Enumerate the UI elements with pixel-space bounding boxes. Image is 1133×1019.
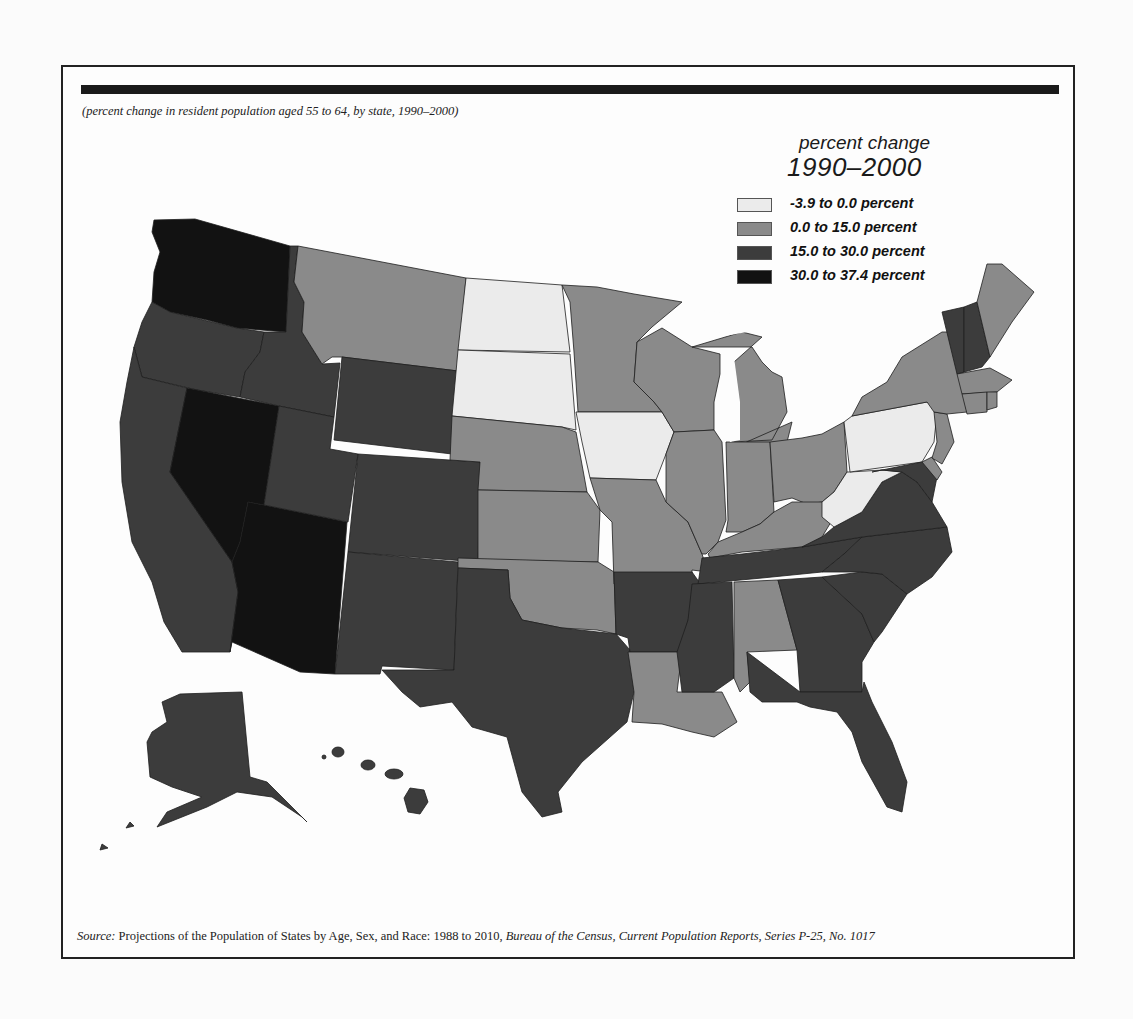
- legend-label: -3.9 to 0.0 percent: [790, 195, 913, 211]
- state-alaska: [147, 692, 307, 827]
- legend-swatch: [737, 222, 772, 236]
- legend-swatch: [737, 246, 772, 260]
- legend-title: percent change: [799, 132, 930, 154]
- legend-swatch: [737, 198, 772, 212]
- state-alaska-island: [100, 844, 108, 850]
- state-new-mexico: [335, 552, 458, 674]
- legend-period: 1990–2000: [787, 152, 922, 183]
- state-hawaii-island: [332, 747, 344, 757]
- source-title: Projections of the Population of States …: [115, 929, 502, 943]
- state-alaska-island: [126, 822, 134, 828]
- source-publisher: Bureau of the Census, Current Population…: [503, 929, 875, 943]
- legend-label: 15.0 to 30.0 percent: [790, 243, 925, 259]
- state-montana: [294, 246, 466, 371]
- legend-item: 30.0 to 37.4 percent: [735, 270, 1035, 286]
- figure-frame: (percent change in resident population a…: [61, 65, 1075, 959]
- state-hawaii-island: [404, 788, 428, 814]
- state-hawaii-island: [385, 769, 403, 779]
- legend-label: 30.0 to 37.4 percent: [790, 267, 925, 283]
- state-kansas: [478, 490, 600, 562]
- source-prefix: Source:: [77, 929, 115, 943]
- legend-swatch: [737, 270, 772, 284]
- legend-item: 15.0 to 30.0 percent: [735, 246, 1035, 262]
- state-arizona: [230, 502, 347, 674]
- state-colorado: [348, 454, 480, 562]
- legend-item: 0.0 to 15.0 percent: [735, 222, 1035, 238]
- state-iowa: [576, 412, 674, 480]
- state-new-jersey: [932, 412, 954, 464]
- state-wyoming: [334, 357, 458, 454]
- state-north-dakota: [458, 278, 570, 352]
- legend-label: 0.0 to 15.0 percent: [790, 219, 917, 235]
- state-hawaii-island: [322, 755, 326, 759]
- source-citation: Source: Projections of the Population of…: [77, 929, 875, 944]
- state-hawaii-island: [361, 760, 375, 770]
- legend-item: -3.9 to 0.0 percent: [735, 198, 1035, 214]
- state-rhode-island: [987, 392, 997, 410]
